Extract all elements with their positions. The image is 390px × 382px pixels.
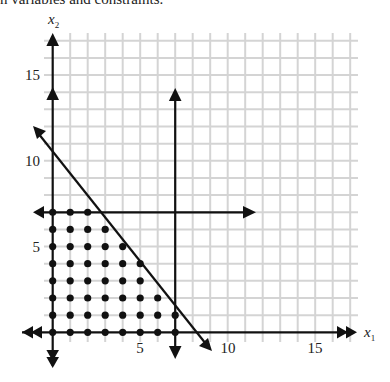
x-tick-5: 5 bbox=[136, 340, 144, 356]
lp-graph: 5 10 15 5 10 15 x1 x2 bbox=[0, 0, 390, 382]
feasible-point bbox=[84, 243, 91, 250]
y-tick-15: 15 bbox=[25, 67, 40, 83]
feasible-point bbox=[102, 277, 109, 284]
feasible-point bbox=[172, 329, 179, 336]
feasible-point bbox=[154, 312, 161, 319]
feasible-point bbox=[154, 329, 161, 336]
x-tick-10: 10 bbox=[221, 340, 236, 356]
feasible-point bbox=[67, 226, 74, 233]
feasible-point bbox=[102, 226, 109, 233]
feasible-point bbox=[67, 277, 74, 284]
constraint-line-x2-eq-7 bbox=[33, 206, 256, 219]
feasible-point bbox=[84, 209, 91, 216]
feasible-point bbox=[67, 209, 74, 216]
feasible-point bbox=[84, 260, 91, 267]
feasible-point bbox=[119, 243, 126, 250]
feasible-point bbox=[49, 226, 56, 233]
x-tick-15: 15 bbox=[308, 340, 323, 356]
feasible-point bbox=[137, 312, 144, 319]
y-tick-10: 10 bbox=[25, 153, 40, 169]
feasible-point bbox=[49, 260, 56, 267]
feasible-point bbox=[84, 277, 91, 284]
feasible-point bbox=[102, 243, 109, 250]
feasible-point bbox=[137, 277, 144, 284]
grid bbox=[44, 33, 358, 342]
feasible-point bbox=[49, 277, 56, 284]
feasible-point bbox=[172, 312, 179, 319]
feasible-point bbox=[102, 329, 109, 336]
feasible-point bbox=[84, 294, 91, 301]
feasible-point bbox=[49, 243, 56, 250]
feasible-point bbox=[102, 312, 109, 319]
x1-axis-label: x1 bbox=[363, 324, 375, 343]
feasible-point bbox=[67, 329, 74, 336]
feasible-point bbox=[84, 226, 91, 233]
feasible-point bbox=[137, 329, 144, 336]
feasible-point bbox=[84, 312, 91, 319]
feasible-point bbox=[119, 277, 126, 284]
feasible-point bbox=[49, 209, 56, 216]
feasible-point bbox=[67, 294, 74, 301]
feasible-point bbox=[102, 294, 109, 301]
feasible-point bbox=[49, 329, 56, 336]
feasible-point bbox=[67, 260, 74, 267]
feasible-point bbox=[84, 329, 91, 336]
x2-axis-label: x2 bbox=[47, 11, 59, 30]
feasible-point bbox=[137, 260, 144, 267]
feasible-point bbox=[49, 294, 56, 301]
feasible-point bbox=[67, 312, 74, 319]
feasible-point bbox=[102, 260, 109, 267]
feasible-point bbox=[119, 329, 126, 336]
feasible-point bbox=[119, 312, 126, 319]
feasible-point bbox=[119, 294, 126, 301]
feasible-point bbox=[137, 294, 144, 301]
feasible-point bbox=[49, 312, 56, 319]
feasible-point bbox=[119, 260, 126, 267]
feasible-point bbox=[154, 294, 161, 301]
feasible-point bbox=[67, 243, 74, 250]
y-tick-5: 5 bbox=[33, 239, 41, 255]
